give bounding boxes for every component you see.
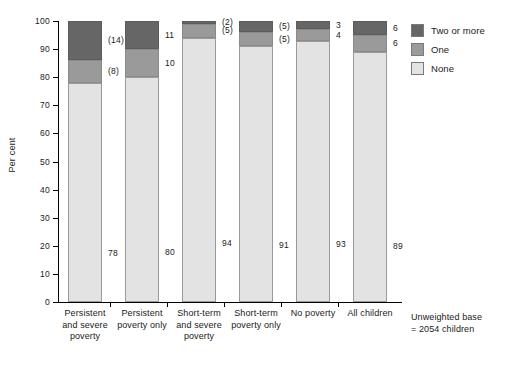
x-axis-category-line: poverty: [166, 331, 232, 343]
bar-column[interactable]: [239, 21, 273, 302]
data-label-none: 91: [279, 241, 289, 250]
legend-swatch-icon: [411, 62, 424, 75]
y-tick-label-0: 0: [24, 298, 50, 307]
bar-segment-two-or-more[interactable]: [125, 21, 159, 49]
y-tick-mark-40: [53, 190, 58, 191]
y-tick-label-90: 90: [24, 45, 50, 54]
bar-segment-none[interactable]: [353, 52, 387, 302]
bar-segment-two-or-more[interactable]: [239, 21, 273, 32]
y-tick-label-40: 40: [24, 186, 50, 195]
y-tick-mark-50: [53, 162, 58, 163]
bar-segment-none[interactable]: [68, 83, 102, 302]
legend-swatch-icon: [411, 24, 424, 37]
bar-column[interactable]: [296, 21, 330, 302]
y-tick-mark-10: [53, 274, 58, 275]
chart-legend: Two or moreOneNone: [411, 22, 485, 79]
x-axis-tick-separator: [167, 302, 168, 307]
data-label-two-or-more: (14): [108, 36, 124, 45]
bar-column[interactable]: [182, 21, 216, 302]
data-label-one: 10: [165, 59, 175, 68]
y-tick-mark-70: [53, 105, 58, 106]
data-label-none: 94: [222, 239, 232, 248]
legend-swatch-icon: [411, 43, 424, 56]
y-tick-mark-80: [53, 77, 58, 78]
bar-segment-two-or-more[interactable]: [296, 21, 330, 29]
y-tick-mark-90: [53, 49, 58, 50]
data-label-none: 93: [336, 240, 346, 249]
y-axis-line: [58, 21, 59, 303]
data-label-two-or-more: 6: [393, 24, 398, 33]
legend-item[interactable]: None: [411, 60, 485, 77]
y-tick-label-70: 70: [24, 101, 50, 110]
data-label-two-or-more: 11: [165, 31, 174, 40]
bar-column[interactable]: [68, 21, 102, 302]
x-axis-category-line: All children: [337, 308, 403, 320]
legend-item[interactable]: Two or more: [411, 22, 485, 39]
legend-item-label: Two or more: [431, 26, 485, 36]
x-axis-tick-separator: [281, 302, 282, 307]
bar-segment-one[interactable]: [353, 35, 387, 52]
bar-segment-one[interactable]: [125, 49, 159, 77]
y-axis-title: Per cent: [7, 125, 17, 185]
bar-segment-one[interactable]: [68, 60, 102, 82]
data-label-one: 6: [393, 39, 398, 48]
x-axis-tick-separator: [338, 302, 339, 307]
y-tick-mark-100: [53, 21, 58, 22]
legend-item-label: None: [431, 64, 454, 74]
y-tick-label-100: 100: [24, 17, 50, 26]
y-tick-label-20: 20: [24, 242, 50, 251]
y-tick-label-50: 50: [24, 158, 50, 167]
bar-segment-none[interactable]: [239, 46, 273, 302]
legend-item-label: One: [431, 45, 449, 55]
data-label-two-or-more: (5): [279, 22, 290, 31]
x-axis-category-label: All children: [337, 308, 403, 320]
x-axis-category-line: poverty only: [223, 320, 289, 332]
x-axis-category-line: poverty: [52, 331, 118, 343]
bar-segment-two-or-more[interactable]: [68, 21, 102, 60]
y-tick-mark-20: [53, 246, 58, 247]
y-tick-label-60: 60: [24, 129, 50, 138]
bar-segment-none[interactable]: [182, 38, 216, 302]
chart-canvas: Per cent 0102030405060708090100 (14)(8)7…: [0, 0, 510, 369]
x-axis-tick-separator: [110, 302, 111, 307]
data-label-one: (5): [279, 35, 290, 44]
y-tick-mark-0: [53, 302, 58, 303]
bar-segment-none[interactable]: [296, 41, 330, 302]
bar-segment-one[interactable]: [239, 32, 273, 46]
data-label-one: (5): [222, 26, 233, 35]
bar-column[interactable]: [125, 21, 159, 302]
data-label-none: 78: [108, 249, 118, 258]
unweighted-base-note: Unweighted base = 2054 children: [411, 311, 482, 335]
data-label-one: 4: [336, 31, 341, 40]
x-axis-tick-separator: [224, 302, 225, 307]
bar-segment-one[interactable]: [182, 24, 216, 38]
bar-column[interactable]: [353, 21, 387, 302]
y-tick-label-30: 30: [24, 214, 50, 223]
y-tick-label-10: 10: [24, 270, 50, 279]
bar-segment-two-or-more[interactable]: [182, 21, 216, 24]
y-tick-mark-60: [53, 133, 58, 134]
bar-segment-one[interactable]: [296, 29, 330, 40]
data-label-none: 89: [393, 242, 403, 251]
y-tick-mark-30: [53, 218, 58, 219]
data-label-none: 80: [165, 248, 175, 257]
data-label-two-or-more: 3: [336, 21, 341, 30]
bar-segment-none[interactable]: [125, 77, 159, 302]
data-label-one: (8): [108, 67, 119, 76]
y-tick-label-80: 80: [24, 73, 50, 82]
bar-segment-two-or-more[interactable]: [353, 21, 387, 35]
legend-item[interactable]: One: [411, 41, 485, 58]
